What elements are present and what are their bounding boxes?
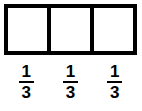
fraction-label-2: 1 3 xyxy=(63,63,78,101)
fraction-denominator: 3 xyxy=(19,83,32,101)
bar-cell-3 xyxy=(90,8,133,51)
fraction-denominator: 3 xyxy=(108,83,121,101)
fraction-label-3: 1 3 xyxy=(107,63,122,101)
fraction-bar-model xyxy=(4,4,137,55)
bar-cell-1 xyxy=(8,8,47,51)
bar-cell-2 xyxy=(47,8,90,51)
fraction-numerator: 1 xyxy=(19,63,32,81)
fraction-label-slot-2: 1 3 xyxy=(48,60,92,108)
fraction-label-1: 1 3 xyxy=(19,63,34,101)
fraction-numerator: 1 xyxy=(108,63,121,81)
fraction-bar-figure: 1 3 1 3 1 3 xyxy=(0,0,142,111)
fraction-denominator: 3 xyxy=(64,83,77,101)
fraction-numerator: 1 xyxy=(64,63,77,81)
fraction-labels-row: 1 3 1 3 1 3 xyxy=(4,60,137,108)
fraction-label-slot-1: 1 3 xyxy=(4,60,48,108)
fraction-label-slot-3: 1 3 xyxy=(93,60,137,108)
